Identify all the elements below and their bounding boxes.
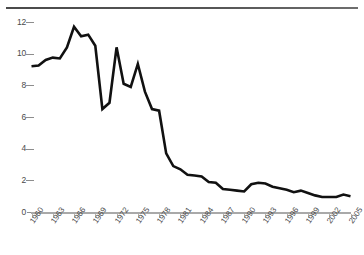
data-line-series-value (32, 27, 351, 197)
chart-figure: 024681012 196019631966196919721975197819… (0, 0, 364, 255)
plot-area: 024681012 196019631966196919721975197819… (0, 0, 364, 255)
series-canvas (0, 0, 364, 255)
